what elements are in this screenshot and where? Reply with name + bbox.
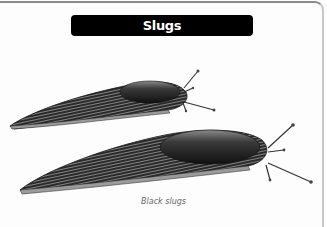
upper-slug-mantle	[120, 81, 180, 103]
lower-slug-tentacles	[266, 125, 311, 182]
illustration-caption: Black slugs	[0, 197, 327, 206]
lower-slug-mantle	[160, 130, 260, 164]
upper-slug-tentacles	[183, 71, 214, 111]
upper-slug	[10, 70, 216, 130]
slug-illustration	[0, 0, 327, 227]
lower-slug	[20, 123, 313, 194]
